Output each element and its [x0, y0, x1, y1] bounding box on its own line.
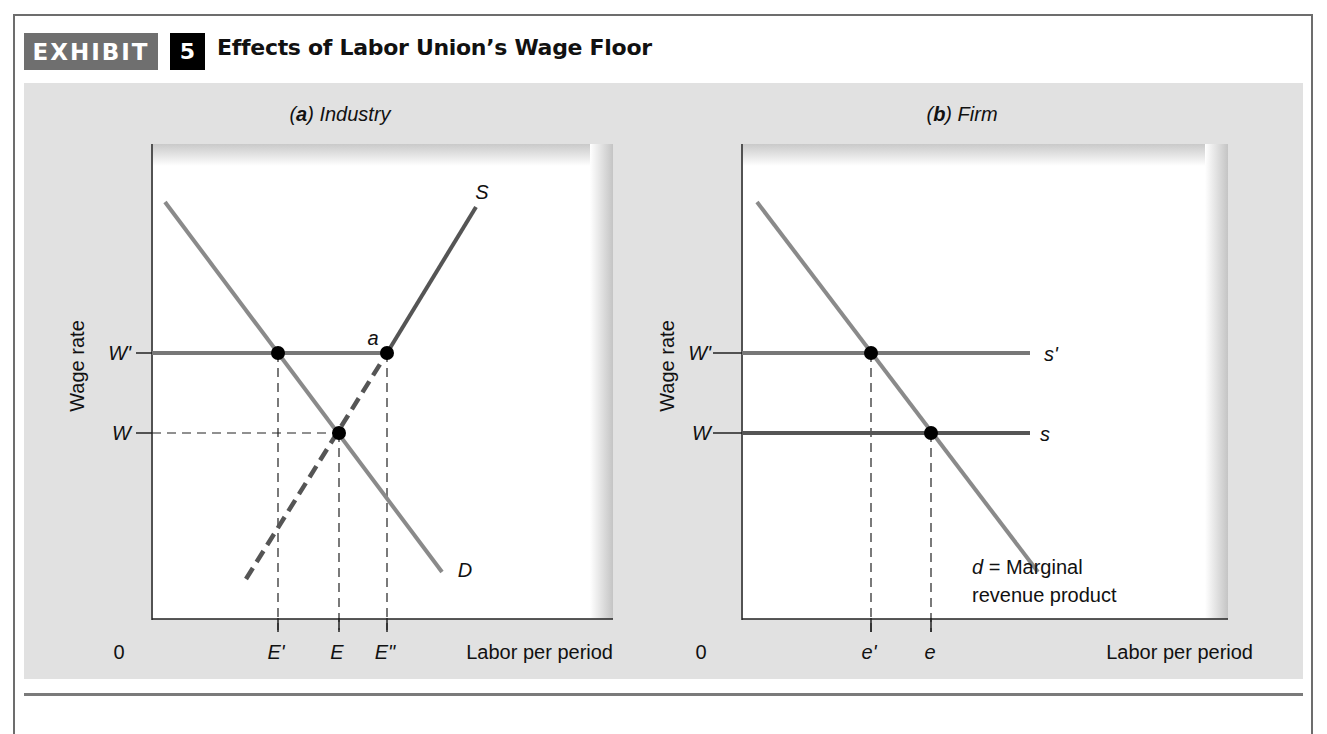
- curve-label-s-prime: s': [1044, 343, 1059, 365]
- tick-label-w-prime: W': [108, 342, 132, 364]
- plot-shade-top: [153, 144, 613, 166]
- point-equilibrium: [332, 426, 346, 440]
- point-label-a: a: [367, 327, 378, 349]
- plot-shade-right: [1205, 144, 1228, 619]
- tick-label-e-prime: E': [267, 641, 285, 663]
- point-e-prime: [864, 346, 878, 360]
- curve-label-d: d = Marginal: [972, 556, 1083, 578]
- plot-shade-right: [590, 144, 613, 619]
- tick-label-e: e: [924, 641, 935, 663]
- point-a: [380, 346, 394, 360]
- plot-shade-top: [743, 144, 1228, 166]
- point-e-prime: [271, 346, 285, 360]
- origin-label: 0: [695, 641, 706, 663]
- curve-label-S: S: [475, 181, 489, 203]
- x-axis-label: Labor per period: [466, 641, 613, 663]
- chart-firm: (b) Firm Wage rate W' W 0 e' e Labor per…: [656, 103, 1253, 663]
- x-axis-label: Labor per period: [1106, 641, 1253, 663]
- y-axis-label: Wage rate: [66, 320, 88, 412]
- chart-industry-title: (a) Industry: [289, 103, 391, 125]
- point-e: [924, 426, 938, 440]
- plot-area: [743, 144, 1228, 619]
- tick-label-w: W: [112, 422, 133, 444]
- curve-label-s: s: [1040, 423, 1050, 445]
- chart-firm-title: (b) Firm: [926, 103, 997, 125]
- curve-label-D: D: [458, 559, 472, 581]
- plot-area: [153, 144, 613, 619]
- origin-label: 0: [113, 641, 124, 663]
- tick-label-e-double: E": [375, 641, 396, 663]
- curve-label-d-line2: revenue product: [972, 584, 1117, 606]
- tick-label-e-prime: e': [862, 641, 878, 663]
- chart-industry: (a) Industry Wage rate W' W 0 E' E: [66, 103, 613, 663]
- tick-label-e: E: [330, 641, 344, 663]
- tick-label-w-prime: W': [688, 342, 712, 364]
- tick-label-w: W: [692, 422, 713, 444]
- y-axis-label: Wage rate: [656, 320, 678, 412]
